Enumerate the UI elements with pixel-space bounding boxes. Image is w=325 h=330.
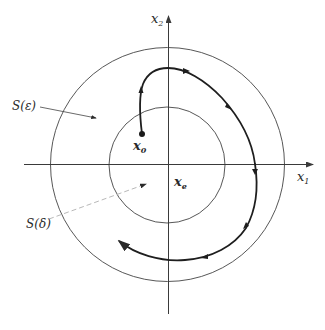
s-epsilon-label: S(ε) [12, 99, 36, 113]
initial-point-dot [139, 131, 145, 137]
equilibrium-point-label: xe [173, 174, 187, 191]
initial-point-label: x0 [132, 138, 147, 155]
x2-axis-label: x2 [151, 11, 163, 28]
trajectory-direction-arrows [139, 68, 259, 259]
s-epsilon-leader-arrow [40, 107, 96, 118]
s-delta-label: S(δ) [26, 217, 51, 231]
stability-diagram: x2 x1 S(ε) S(δ) x0 xe [0, 0, 325, 330]
s-delta-leader-arrow [49, 184, 146, 219]
x1-axis-label: x1 [297, 169, 309, 186]
diagram-canvas: x2 x1 S(ε) S(δ) x0 xe [0, 0, 325, 330]
